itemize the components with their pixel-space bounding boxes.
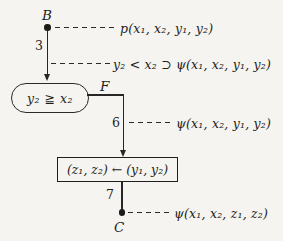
exit-point-c-dot: [119, 209, 126, 216]
edge-b-to-test-arrowhead: [44, 74, 50, 81]
edge-label-7: 7: [106, 189, 114, 202]
dashed-connector-edge3: [51, 63, 110, 65]
annotation-psi-z: ψ(x₁, x₂, z₁, z₂): [174, 206, 268, 221]
edge-label-3: 3: [35, 40, 43, 53]
flowchart-canvas: B p(x₁, x₂, y₁, y₂) 3 y₂ < x₂ ⊃ ψ(x₁, x₂…: [0, 0, 283, 241]
test-oval: y₂ ≧ x₂: [11, 83, 89, 113]
edge-assign-to-c: [121, 182, 122, 210]
exit-point-c-label: C: [114, 221, 124, 235]
assignment-box: (z₁, z₂) ← (y₁, y₂): [57, 157, 178, 182]
annotation-precondition: p(x₁, x₂, y₁, y₂): [120, 21, 213, 36]
entry-point-b-label: B: [42, 9, 52, 23]
branch-f-horizontal-line: [87, 94, 124, 95]
annotation-implication: y₂ < x₂ ⊃ ψ(x₁, x₂, y₁, y₂): [113, 57, 271, 72]
dashed-connector-b: [55, 27, 117, 29]
edge-b-to-test: [47, 30, 48, 75]
edge-label-6: 6: [112, 117, 120, 130]
dashed-connector-edge6: [129, 122, 172, 124]
branch-f-vertical-line: [123, 94, 124, 150]
annotation-psi-y: ψ(x₁, x₂, y₁, y₂): [176, 116, 271, 131]
dashed-connector-c: [128, 212, 170, 214]
assignment-box-text: (z₁, z₂) ← (y₁, y₂): [67, 162, 168, 177]
edge-6-arrowhead: [120, 150, 126, 157]
test-oval-text: y₂ ≧ x₂: [27, 91, 73, 106]
branch-label-f: F: [100, 80, 109, 94]
